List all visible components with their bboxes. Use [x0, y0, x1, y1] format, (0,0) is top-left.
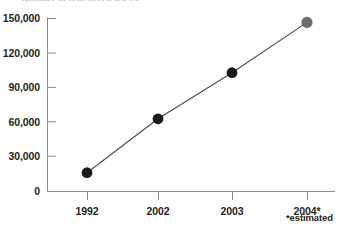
y-tick-label-60000: 60,000: [0, 116, 40, 128]
line-chart-plot: [0, 0, 339, 234]
data-point-2004: [301, 17, 312, 28]
data-line: [87, 22, 307, 172]
estimated-footnote: *estimated: [286, 212, 333, 223]
data-point-2002: [153, 113, 164, 124]
y-axis-ticks: [48, 19, 57, 157]
y-tick-label-90000: 90,000: [0, 81, 40, 93]
y-tick-label-120000: 120,000: [0, 47, 40, 59]
x-tick-label-2002: 2002: [128, 205, 188, 217]
chart-svg: [0, 0, 339, 234]
x-tick-label-1992: 1992: [57, 205, 117, 217]
cropped-caption-text: Source: Industry Analysis Report: [96, 233, 222, 234]
y-tick-label-30000: 30,000: [0, 150, 40, 162]
data-point-1992: [82, 167, 93, 178]
y-tick-label-0: 0: [0, 185, 40, 197]
x-axis-ticks: [88, 192, 308, 201]
chart-screenshot: Number of registered users: [0, 0, 339, 234]
y-tick-label-150000: 150,000: [0, 12, 40, 24]
x-tick-label-2003: 2003: [202, 205, 262, 217]
data-point-2003: [227, 67, 238, 78]
